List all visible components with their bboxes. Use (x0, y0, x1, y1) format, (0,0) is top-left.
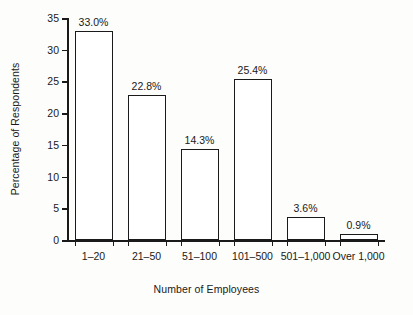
x-axis-title: Number of Employees (0, 283, 413, 295)
bar (340, 234, 378, 240)
x-axis-tick (113, 241, 115, 246)
y-axis-title: Percentage of Respondents (4, 0, 26, 258)
y-axis-title-text: Percentage of Respondents (9, 63, 21, 196)
bar (234, 79, 272, 240)
x-axis-tick (340, 241, 342, 246)
y-axis-tick-label: 0 (53, 234, 59, 246)
x-axis-tick (128, 241, 130, 246)
bar-value-label: 25.4% (238, 64, 268, 76)
x-axis-category-label: 501–1,000 (281, 250, 331, 262)
x-axis-category-label: 101–500 (232, 250, 273, 262)
x-axis-tick (219, 241, 221, 246)
bar (75, 31, 113, 240)
bar (181, 149, 219, 240)
x-axis-category-label: 1–20 (82, 250, 105, 262)
x-axis-tick (234, 241, 236, 246)
x-axis-tick (287, 241, 289, 246)
x-axis-tick (181, 241, 183, 246)
bar (128, 95, 166, 240)
bars-container: 33.0%22.8%14.3%25.4%3.6%0.9% (67, 18, 385, 240)
x-axis-tick (378, 241, 380, 246)
x-axis-tick (75, 241, 77, 246)
bar (287, 217, 325, 240)
x-axis-tick (272, 241, 274, 246)
bar-value-label: 22.8% (132, 80, 162, 92)
x-axis-ticks (67, 241, 385, 247)
y-axis-tick-label: 25 (47, 75, 59, 87)
y-axis-tick-label: 35 (47, 12, 59, 24)
x-axis-category-labels: 1–2021–5051–100101–500501–1,000Over 1,00… (67, 0, 385, 20)
x-axis-tick (325, 241, 327, 246)
bar-value-label: 14.3% (185, 134, 215, 146)
x-axis-category-label: 21–50 (132, 250, 161, 262)
bar-chart: Percentage of Respondents 05101520253035… (0, 0, 413, 315)
bar-value-label: 0.9% (347, 219, 371, 231)
y-axis-tick-label: 15 (47, 139, 59, 151)
y-axis-tick-label: 20 (47, 107, 59, 119)
y-axis-tick-label: 30 (47, 44, 59, 56)
x-axis-tick (166, 241, 168, 246)
y-axis-tick-label: 10 (47, 171, 59, 183)
x-axis-category-label: 51–100 (182, 250, 217, 262)
x-axis-category-label: Over 1,000 (333, 250, 385, 262)
y-axis-tick-label: 5 (53, 202, 59, 214)
bar-value-label: 3.6% (294, 202, 318, 214)
